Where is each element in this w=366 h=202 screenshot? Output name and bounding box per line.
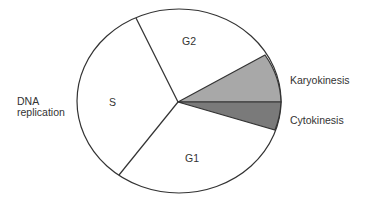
label-g1: G1 [185, 152, 199, 164]
label-g2: G2 [182, 35, 196, 47]
cell-cycle-pie [0, 0, 366, 202]
label-s: S [109, 96, 116, 108]
label-cytokinesis: Cytokinesis [290, 114, 344, 126]
label-dna-replication-line2: replication [17, 106, 65, 118]
label-karyokinesis: Karyokinesis [290, 74, 350, 86]
